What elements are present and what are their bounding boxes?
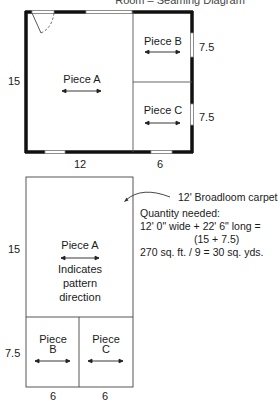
- dimension-right-bottom: 7.5: [199, 111, 214, 123]
- dimension-right-top: 7.5: [199, 41, 214, 53]
- layout-piece-a-label: Piece A: [56, 239, 104, 251]
- dimension-left-height: 15: [8, 75, 20, 87]
- layout-dimension-left-top: 15: [8, 243, 20, 255]
- carpet-type-label: 12' Broadloom carpet: [178, 191, 277, 204]
- door-swing-icon: [32, 13, 54, 33]
- pattern-note-line2: pattern: [50, 277, 110, 289]
- dimension-bottom-left: 12: [74, 158, 86, 170]
- layout-piece-c-line2: C: [83, 343, 129, 355]
- quantity-line3: 270 sq. ft. / 9 = 30 sq. yds.: [140, 246, 263, 259]
- piece-b-label: Piece B: [141, 35, 185, 47]
- pattern-note-line3: direction: [50, 291, 110, 303]
- pattern-note-line1: Indicates: [50, 263, 110, 275]
- layout-dimension-bottom-left: 6: [50, 390, 56, 402]
- dimension-bottom-right: 6: [157, 158, 163, 170]
- callout-arrow-icon: [124, 192, 170, 202]
- piece-c-label: Piece C: [141, 104, 185, 116]
- layout-piece-b-line2: B: [30, 343, 76, 355]
- quantity-line1: 12' 0" wide + 22' 6" long =: [140, 220, 261, 233]
- quantity-line2: (15 + 7.5): [194, 233, 239, 246]
- quantity-heading: Quantity needed:: [140, 207, 220, 220]
- layout-dimension-left-bottom: 7.5: [5, 347, 20, 359]
- piece-a-label: Piece A: [62, 73, 102, 85]
- layout-dimension-bottom-right: 6: [102, 390, 108, 402]
